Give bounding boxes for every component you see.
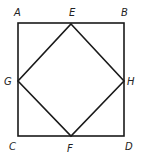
label-H: H [127,76,135,87]
label-D: D [125,141,133,152]
label-B: B [121,7,128,18]
label-F: F [67,143,73,154]
label-A: A [13,7,21,18]
geometry-diagram: A E B G H C F D [0,0,142,156]
label-E: E [69,7,76,18]
label-C: C [9,141,16,152]
outer-square-ABDC [18,23,124,136]
label-G: G [4,76,12,87]
inner-square-EHFG [18,24,124,136]
